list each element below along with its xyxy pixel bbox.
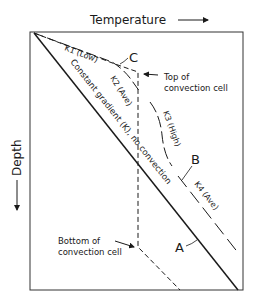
k1-label: K1 (Low) (63, 43, 99, 64)
k3-label: K3 (High) (161, 110, 182, 148)
temperature-depth-diagram: Temperature Depth Constant gradient (K),… (0, 0, 255, 305)
label-c: C (129, 50, 138, 65)
y-axis-label: Depth (10, 139, 24, 176)
label-a: A (175, 240, 184, 255)
label-a-leader (186, 240, 197, 246)
label-c-leader (120, 58, 128, 64)
line-a-annotation: Constant gradient (K), no convection (68, 57, 173, 186)
top-cell-arrow-icon (144, 74, 158, 75)
top-cell-label-line1: Top of (163, 72, 190, 82)
k4-label: K4 (Ave) (192, 180, 220, 212)
label-b: B (191, 152, 200, 167)
label-b-leader (182, 166, 192, 180)
top-cell-label-line2: convection cell (164, 83, 228, 93)
bottom-cell-label-line1: Bottom of (58, 236, 101, 246)
bottom-cell-label-line2: convection cell (58, 247, 122, 257)
line-b-k4-segment (178, 176, 239, 254)
x-axis-label: Temperature (89, 13, 166, 27)
